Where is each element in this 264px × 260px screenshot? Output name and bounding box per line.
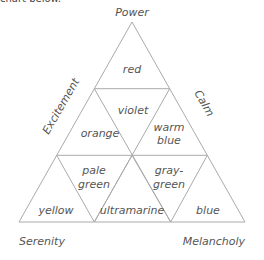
side-label-calm: Calm <box>191 88 216 119</box>
color-emotion-triangle: Power Serenity Melancholy Excitement Cal… <box>0 0 264 260</box>
cell-pale-green-line2: green <box>78 178 110 191</box>
cell-warm-blue-line2: blue <box>157 134 181 147</box>
cell-orange: orange <box>81 127 120 140</box>
cell-ultramarine: ultramarine <box>100 204 165 217</box>
cell-violet: violet <box>118 104 149 117</box>
cell-pale-green-line1: pale <box>81 164 106 177</box>
cell-red: red <box>123 63 142 76</box>
cell-blue: blue <box>196 204 220 217</box>
corner-label-serenity: Serenity <box>19 235 65 248</box>
side-label-excitement: Excitement <box>40 75 83 136</box>
cell-yellow: yellow <box>37 204 73 217</box>
cell-gray-green-line2: green <box>153 178 185 191</box>
cell-warm-blue-line1: warm <box>154 121 185 134</box>
corner-label-melancholy: Melancholy <box>183 235 246 248</box>
cell-gray-green-line1: gray- <box>155 164 183 177</box>
corner-label-power: Power <box>115 6 150 19</box>
